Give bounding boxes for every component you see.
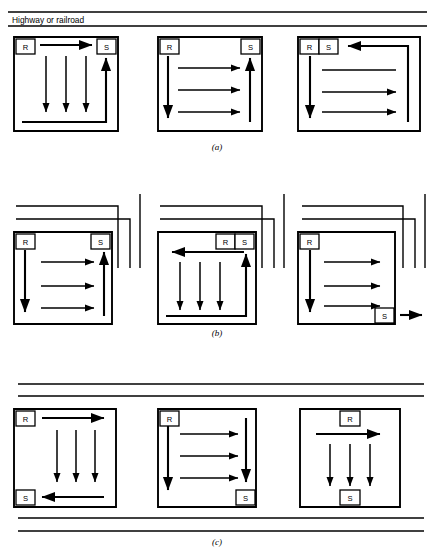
svg-text:R: R: [347, 415, 353, 424]
svg-text:S: S: [23, 494, 28, 503]
svg-text:R: R: [167, 415, 173, 424]
svg-text:S: S: [243, 494, 248, 503]
node-receiving: R: [340, 411, 360, 426]
node-shipping: S: [319, 39, 338, 54]
caption-a: (a): [212, 142, 223, 152]
road-c-bottom: [18, 518, 424, 531]
node-shipping: S: [340, 490, 360, 505]
svg-text:S: S: [248, 43, 253, 52]
panel-b-3: R S: [298, 194, 425, 324]
svg-text:R: R: [167, 43, 173, 52]
road-b-3: [302, 194, 425, 268]
node-receiving: R: [160, 39, 179, 54]
road-b-1: [16, 194, 140, 268]
svg-text:R: R: [307, 43, 313, 52]
panel-c-1: R S: [14, 409, 116, 507]
panel-c-2: R S: [158, 409, 256, 507]
node-receiving: R: [16, 411, 35, 426]
node-shipping: S: [16, 490, 35, 505]
panel-a-3: R S: [298, 37, 420, 131]
row-b: R S R: [14, 194, 425, 338]
caption-c: (c): [212, 537, 222, 547]
svg-text:R: R: [23, 43, 29, 52]
svg-text:R: R: [223, 238, 229, 247]
panel-a-2: R S: [158, 37, 262, 131]
svg-text:R: R: [23, 415, 29, 424]
node-receiving: R: [16, 234, 35, 249]
node-receiving: R: [16, 39, 35, 54]
road-label: Highway or railroad: [12, 15, 84, 25]
road-b-2: [160, 194, 284, 268]
svg-text:S: S: [98, 238, 103, 247]
row-a: Highway or railroad R S: [8, 12, 427, 152]
node-receiving: R: [300, 234, 319, 249]
panel-a-1: R S: [14, 37, 118, 131]
node-receiving: R: [300, 39, 319, 54]
node-shipping: S: [97, 39, 116, 54]
svg-text:R: R: [307, 238, 313, 247]
node-receiving: R: [216, 234, 235, 249]
node-shipping: S: [375, 308, 394, 323]
panel-c-3: R S: [300, 409, 400, 507]
node-shipping: S: [91, 234, 110, 249]
figure-container: Highway or railroad R S: [0, 0, 435, 549]
node-shipping: S: [236, 490, 255, 505]
svg-text:R: R: [23, 238, 29, 247]
panel-b-1: R S: [14, 194, 140, 324]
caption-b: (b): [212, 328, 223, 338]
panel-b-2: R S: [158, 194, 284, 324]
row-c: R S R S: [14, 384, 424, 547]
svg-text:S: S: [104, 43, 109, 52]
node-shipping: S: [235, 234, 254, 249]
road-c-top: [18, 384, 424, 396]
svg-text:S: S: [326, 43, 331, 52]
svg-text:S: S: [242, 238, 247, 247]
node-receiving: R: [160, 411, 179, 426]
svg-text:S: S: [347, 494, 352, 503]
svg-text:S: S: [382, 312, 387, 321]
node-shipping: S: [241, 39, 260, 54]
